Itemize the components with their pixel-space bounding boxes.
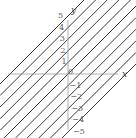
intercept-label: 1 [61, 58, 66, 66]
line-segment [39, 41, 136, 138]
intercept-label: −5 [73, 128, 85, 136]
intercept-label: 3 [60, 35, 65, 43]
intercept-label: −4 [72, 116, 84, 124]
intercept-label: −3 [71, 105, 83, 113]
coordinate-plane-figure: y x 543210−1−2−3−4−5 [0, 0, 136, 138]
y-axis-label: y [71, 6, 76, 15]
intercept-label: −2 [70, 93, 82, 101]
intercept-label: 5 [58, 12, 63, 20]
x-axis-label: x [122, 70, 127, 79]
intercept-label: 4 [59, 24, 64, 32]
intercept-label: 2 [61, 47, 66, 55]
line-segment [0, 0, 107, 107]
intercept-label: −1 [69, 82, 81, 90]
intercept-label: 0 [68, 68, 73, 76]
